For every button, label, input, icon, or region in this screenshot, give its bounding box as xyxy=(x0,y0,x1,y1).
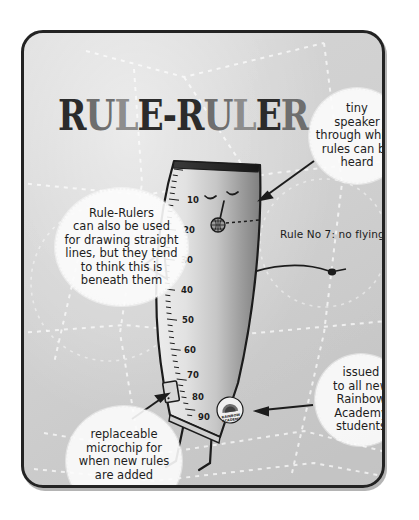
title-letter: E xyxy=(138,93,163,136)
callout-line: can also be used xyxy=(73,220,170,234)
nose-line xyxy=(220,201,224,219)
eye-left xyxy=(205,196,216,199)
title-letter: U xyxy=(204,93,233,136)
title-letter: - xyxy=(163,93,176,136)
badge-text-bottom: ACADEMY xyxy=(222,417,242,424)
callout-microchip: replaceable microchip for when new rules… xyxy=(66,406,182,488)
scale-number: 80 xyxy=(192,392,204,402)
rainbow-academy-badge: RAINBOW ACADEMY xyxy=(215,395,244,424)
page-title: RULE-RULER xyxy=(58,93,308,136)
callout-line: when new rules xyxy=(79,455,169,469)
callout-issued-to-students: issued to all new Rainbow Academy studen… xyxy=(315,354,385,446)
callout-tiny-speaker: tiny speaker through which rules can be … xyxy=(309,88,385,184)
scale-number: 40 xyxy=(181,285,193,295)
ruler-face xyxy=(205,192,238,219)
callout-line: Rainbow xyxy=(336,393,385,407)
callout-line: heard xyxy=(340,156,373,170)
scale-number: 50 xyxy=(182,315,194,325)
scale-number: 10 xyxy=(187,195,199,205)
title-letter: R xyxy=(281,93,309,136)
scale-number: 90 xyxy=(198,412,210,422)
callout-line: Academy xyxy=(334,407,385,421)
ruler-scale-numbers: 10 20 30 40 50 60 70 80 90 xyxy=(181,195,210,422)
title-letter: R xyxy=(58,93,86,136)
ruler-hand-finger xyxy=(336,269,346,271)
badge-text-top: RAINBOW xyxy=(221,413,240,420)
ruler-arm xyxy=(250,265,329,273)
eye-right xyxy=(227,192,238,195)
callout-straight-lines: Rule-Rulers can also be used for drawing… xyxy=(55,188,188,306)
callout-line: issued xyxy=(343,366,380,380)
callout-line: Rule-Rulers xyxy=(89,207,154,221)
callout-line: students xyxy=(336,420,385,434)
callout-line: rules can be xyxy=(322,143,385,157)
callout-line: replaceable xyxy=(90,428,157,442)
title-letter: L xyxy=(114,93,137,136)
ruler-body xyxy=(156,161,260,443)
callout-line: microchip for xyxy=(86,442,162,456)
ruler-top-edge xyxy=(173,161,260,172)
callout-line: lines, but they tend xyxy=(65,247,177,261)
ruler-hand xyxy=(328,269,336,276)
scale-number: 60 xyxy=(184,345,196,355)
callout-line: for drawing straight xyxy=(65,234,179,248)
callout-line: to think this is xyxy=(81,261,163,275)
callout-line: tiny xyxy=(346,102,368,116)
title-letter: U xyxy=(86,93,115,136)
page-root: 10 20 30 40 50 60 70 80 90 xyxy=(0,0,419,520)
sound-dashes xyxy=(226,220,260,223)
illustration-panel: 10 20 30 40 50 60 70 80 90 xyxy=(21,30,385,488)
callout-line: are added xyxy=(95,469,153,483)
callout-line: to all new xyxy=(333,380,385,394)
microchip xyxy=(163,381,180,403)
callout-subnote: (once a week) xyxy=(94,484,155,488)
callout-line: through which xyxy=(316,129,385,143)
rule-no-7-caption: Rule No 7: no flying indoors xyxy=(280,228,385,240)
scale-number: 70 xyxy=(187,370,199,380)
title-letter: R xyxy=(176,93,204,136)
callout-line: beneath them xyxy=(81,274,162,288)
title-letter: L xyxy=(233,93,256,136)
speaker-icon xyxy=(211,218,225,232)
title-letter: E xyxy=(256,93,281,136)
callout-line: speaker xyxy=(334,116,379,130)
